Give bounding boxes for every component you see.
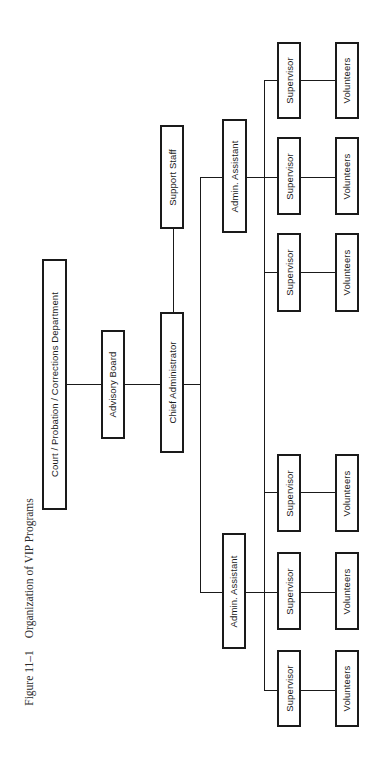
- node-supervisor-5: Supervisor: [277, 552, 301, 630]
- node-volunteers-5: Volunteers: [335, 552, 359, 630]
- node-label: Volunteers: [342, 153, 353, 199]
- connector-admin-1-bracket: [247, 177, 277, 179]
- node-support-staff: Support Staff: [160, 125, 184, 229]
- node-label: Supervisor: [284, 665, 295, 711]
- node-label: Volunteers: [342, 58, 353, 104]
- node-label: Chief Administrator: [167, 341, 178, 423]
- node-label: Admin. Assistant: [229, 140, 240, 212]
- connector-chief-trunk: [184, 384, 200, 386]
- connector-bracket-supervisor-4: [264, 492, 278, 494]
- connector-bracket-supervisor-6: [264, 690, 278, 692]
- node-advisory-board: Advisory Board: [101, 330, 125, 439]
- connector-supervisor-volunteers-3: [301, 272, 336, 274]
- node-label: Support Staff: [167, 149, 178, 206]
- node-supervisor-2: Supervisor: [277, 137, 301, 215]
- connector-supervisor-bracket: [264, 80, 266, 691]
- connector-bracket-supervisor-3: [264, 272, 278, 274]
- connector-supervisor-volunteers-1: [301, 80, 336, 82]
- node-label: Volunteers: [342, 666, 353, 712]
- connector-trunk-admin-1: [200, 177, 223, 179]
- node-volunteers-3: Volunteers: [335, 233, 359, 312]
- figure-title: Organization of VIP Programs: [23, 498, 35, 638]
- connector-supervisor-volunteers-2: [301, 177, 336, 179]
- node-volunteers-4: Volunteers: [335, 454, 359, 532]
- node-label: Supervisor: [284, 57, 295, 103]
- node-volunteers-2: Volunteers: [335, 137, 359, 215]
- connector-bracket-supervisor-1: [264, 80, 278, 82]
- node-supervisor-1: Supervisor: [277, 42, 301, 119]
- node-label: Advisory Board: [108, 352, 119, 418]
- node-court-probation-corrections: Court / Probation / Corrections Departme…: [42, 259, 67, 510]
- node-supervisor-4: Supervisor: [277, 454, 301, 532]
- node-admin-assistant-1: Admin. Assistant: [222, 119, 247, 233]
- node-label: Volunteers: [342, 568, 353, 614]
- figure-number: Figure 11–1: [23, 650, 35, 705]
- node-chief-administrator: Chief Administrator: [160, 312, 184, 453]
- node-label: Supervisor: [284, 470, 295, 516]
- org-chart-figure: Figure 11–1Organization of VIP Programs …: [0, 0, 382, 762]
- node-label: Volunteers: [342, 250, 353, 296]
- node-volunteers-6: Volunteers: [335, 650, 359, 727]
- connector-trunk-admin-2: [200, 592, 223, 594]
- node-admin-assistant-2: Admin. Assistant: [222, 533, 246, 649]
- connector-supervisor-volunteers-6: [301, 690, 336, 692]
- node-label: Volunteers: [342, 470, 353, 516]
- connector-support-chief: [173, 229, 175, 313]
- node-supervisor-3: Supervisor: [277, 233, 301, 312]
- node-label: Court / Probation / Corrections Departme…: [49, 292, 60, 477]
- node-label: Supervisor: [284, 153, 295, 199]
- connector-supervisor-volunteers-5: [301, 592, 336, 594]
- node-supervisor-6: Supervisor: [277, 650, 301, 727]
- connector-advisory-chief: [125, 384, 161, 386]
- node-volunteers-1: Volunteers: [335, 42, 359, 119]
- connector-supervisor-volunteers-4: [301, 492, 336, 494]
- connector-court-advisory: [67, 384, 102, 386]
- connector-trunk-admins: [200, 177, 202, 593]
- connector-admin-2-bracket: [246, 592, 277, 594]
- node-label: Supervisor: [284, 568, 295, 614]
- node-label: Admin. Assistant: [229, 555, 240, 627]
- node-label: Supervisor: [284, 249, 295, 295]
